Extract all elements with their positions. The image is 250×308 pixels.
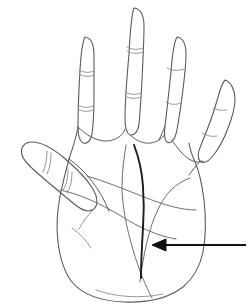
palm-diagram-figure — [0, 0, 250, 308]
palm-drawing-canvas — [0, 0, 250, 308]
